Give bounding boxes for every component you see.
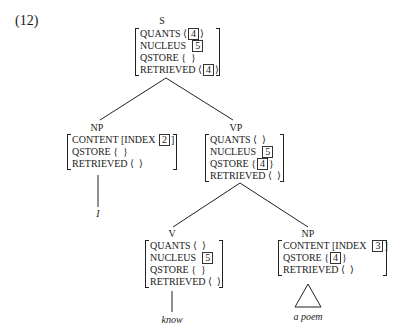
avm-v: QUANTS ⟨ ⟩ NUCLEUS 5 QSTORE { } RETRIEVE… [145,240,223,288]
tag-box: 4 [203,64,214,76]
tag-box: 4 [330,252,341,264]
node-label-s: S [159,15,165,26]
avm-np-object: CONTENT [INDEX 3] QSTORE {4} RETRIEVED ⟨… [278,240,387,276]
node-label-np-subject: NP [91,122,104,133]
feature-row: QSTORE { } [150,264,218,276]
feature-row: QSTORE {4} [210,158,279,170]
feature-row: QSTORE {4} [283,252,382,264]
feature-row: RETRIEVED ⟨ ⟩ [210,170,279,182]
tag-box: 4 [188,28,199,40]
feature-row: QUANTS ⟨4⟩ [140,28,215,40]
feature-row: QSTORE { } [72,146,172,158]
feature-row: RETRIEVED ⟨4⟩ [140,64,215,76]
word-a-poem: a poem [293,311,322,322]
feature-row: QSTORE { } [140,52,215,64]
node-label-np-object: NP [302,228,315,239]
node-label-vp: VP [230,122,243,133]
triangle-icon [295,284,321,307]
feature-row: CONTENT [INDEX 3] [283,240,382,252]
avm-vp: QUANTS ⟨ ⟩ NUCLEUS 5 QSTORE {4} RETRIEVE… [205,134,284,182]
tag-box: 3 [372,240,383,252]
feature-row: RETRIEVED ⟨ ⟩ [283,264,382,276]
word-know: know [161,314,182,325]
tag-box: 2 [159,134,170,146]
feature-row: NUCLEUS 5 [150,252,218,264]
feature-row: NUCLEUS 5 [140,40,215,52]
avm-np-subject: CONTENT [INDEX 2] QSTORE { } RETRIEVED ⟨… [67,134,177,170]
feature-row: RETRIEVED ⟨ ⟩ [150,276,218,288]
avm-s: QUANTS ⟨4⟩ NUCLEUS 5 QSTORE { } RETRIEVE… [135,28,220,76]
feature-row: QUANTS ⟨ ⟩ [210,134,279,146]
tag-box: 5 [262,146,273,158]
tag-box: 5 [192,40,203,52]
feature-row: NUCLEUS 5 [210,146,279,158]
word-i: I [96,208,99,219]
feature-row: QUANTS ⟨ ⟩ [150,240,218,252]
feature-row: CONTENT [INDEX 2] [72,134,172,146]
node-label-v: V [168,228,175,239]
tag-box: 5 [202,252,213,264]
tag-box: 4 [257,158,268,170]
feature-row: RETRIEVED ⟨ ⟩ [72,158,172,170]
